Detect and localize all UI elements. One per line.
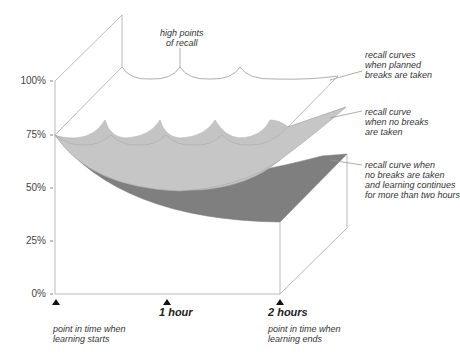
annotation-high-points: high points of recall: [160, 28, 204, 48]
annotation-no-breaks-long: recall curve when no breaks are taken an…: [365, 160, 460, 200]
planned-breaks-curve: [122, 67, 338, 79]
y-label-100: 100%: [6, 75, 46, 86]
annotation-planned-breaks: recall curves when planned breaks are ta…: [365, 50, 432, 80]
tick-marker-start: [52, 299, 60, 305]
note-learning-starts: point in time when learning starts: [53, 324, 126, 344]
y-label-50: 50%: [6, 182, 46, 193]
y-label-75: 75%: [6, 129, 46, 140]
y-label-25: 25%: [6, 235, 46, 246]
annotation-no-breaks: recall curve when no breaks are taken: [365, 107, 429, 137]
tick-marker-1hour: [163, 299, 171, 305]
x-tick-2hours: 2 hours: [268, 306, 308, 318]
note-learning-ends: point in time when learning ends: [268, 324, 341, 344]
x-tick-1hour: 1 hour: [159, 306, 193, 318]
tick-marker-2hours: [276, 299, 284, 305]
y-label-0: 0%: [6, 288, 46, 299]
